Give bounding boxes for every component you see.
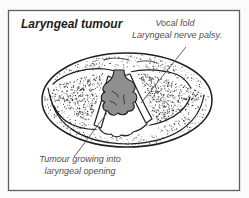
figure-panel: Laryngeal tumour Vocal fold Laryngeal ne… — [0, 0, 249, 198]
larynx-diagram: Laryngeal tumour Vocal fold Laryngeal ne… — [0, 0, 249, 198]
tumour-label-line2: laryngeal opening — [44, 166, 115, 176]
vocal-fold-label-line1: Vocal fold — [155, 18, 195, 28]
vocal-fold-label-line2: Laryngeal nerve palsy. — [132, 30, 222, 40]
figure-title: Laryngeal tumour — [21, 17, 124, 31]
tumour-label-line1: Tumour growing into — [39, 154, 120, 164]
